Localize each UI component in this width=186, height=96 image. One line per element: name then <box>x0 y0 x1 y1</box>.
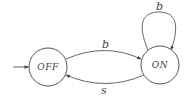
state-off: OFF <box>29 48 67 86</box>
state-diagram: b b s OFF ON <box>0 0 186 96</box>
state-on-label: ON <box>152 60 169 70</box>
state-on: ON <box>141 46 179 84</box>
transition-label-off-to-on: b <box>102 38 109 51</box>
transition-on-self-loop <box>142 12 175 50</box>
transition-label-on-self-loop: b <box>156 0 163 13</box>
transition-off-to-on <box>66 51 141 60</box>
transition-on-to-off <box>66 75 144 84</box>
transition-label-on-to-off: s <box>101 84 107 96</box>
state-off-label: OFF <box>37 62 59 72</box>
